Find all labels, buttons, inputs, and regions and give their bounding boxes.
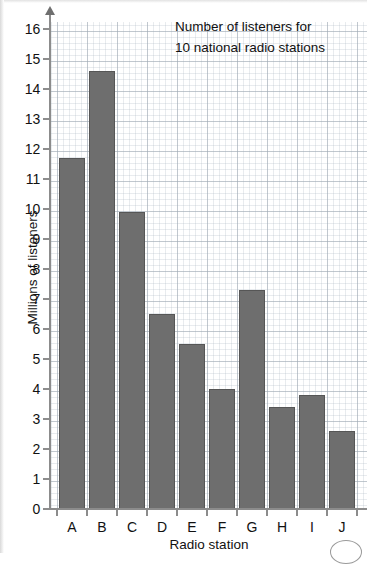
x-axis-line: [49, 508, 367, 510]
y-axis-tick: [43, 178, 50, 180]
x-axis-tick: [236, 509, 238, 516]
y-axis-tick: [43, 418, 50, 420]
y-axis-tick-label: 0: [0, 502, 40, 516]
x-axis-tick-label-f: F: [207, 520, 237, 535]
x-axis-tick-label-d: D: [147, 520, 177, 535]
y-axis-tick-label: 13: [0, 112, 40, 126]
x-axis-tick-label-b: B: [87, 520, 117, 535]
x-axis-tick: [296, 509, 298, 516]
y-axis-tick-label: 1: [0, 472, 40, 486]
x-axis-tick-label-g: G: [237, 520, 267, 535]
y-axis-tick-label: 15: [0, 52, 40, 66]
x-axis-tick-label-j: J: [327, 520, 357, 535]
y-axis-tick: [43, 358, 50, 360]
chart-title: Number of listeners for 10 national radi…: [175, 16, 325, 58]
bar-j: [329, 431, 355, 509]
y-axis-tick: [43, 478, 50, 480]
y-axis-tick: [43, 268, 50, 270]
x-axis-title: Radio station: [51, 537, 367, 552]
y-axis-tick: [43, 208, 50, 210]
y-axis-tick: [43, 238, 50, 240]
y-axis-tick-label: 3: [0, 412, 40, 426]
y-axis-tick: [43, 118, 50, 120]
x-axis-tick: [146, 509, 148, 516]
x-axis-tick-label-c: C: [117, 520, 147, 535]
y-axis-tick: [43, 88, 50, 90]
y-axis-tick: [43, 28, 50, 30]
bar-b: [89, 71, 115, 509]
y-axis-tick: [43, 388, 50, 390]
x-axis-tick: [326, 509, 328, 516]
y-axis-tick: [43, 298, 50, 300]
x-axis-tick: [356, 509, 358, 516]
x-axis-tick-label-e: E: [177, 520, 207, 535]
chart-title-line-1: Number of listeners for: [175, 16, 325, 37]
scan-edge-top: [0, 0, 367, 3]
x-axis-tick-label-i: I: [297, 520, 327, 535]
y-axis-tick-label: 12: [0, 142, 40, 156]
x-axis-tick-label-h: H: [267, 520, 297, 535]
y-axis-tick: [43, 448, 50, 450]
x-axis-tick-label-a: A: [57, 520, 87, 535]
y-axis-tick: [43, 58, 50, 60]
bar-h: [269, 407, 295, 509]
bar-e: [179, 344, 205, 509]
page-corner-mark: [330, 540, 362, 564]
chart-title-line-2: 10 national radio stations: [175, 37, 325, 58]
y-axis-tick-label: 14: [0, 82, 40, 96]
x-axis-tick: [176, 509, 178, 516]
y-axis-tick-label: 2: [0, 442, 40, 456]
bar-c: [119, 212, 145, 509]
y-axis-tick-label: 4: [0, 382, 40, 396]
bar-i: [299, 395, 325, 509]
y-axis-tick: [43, 148, 50, 150]
x-axis-tick: [116, 509, 118, 516]
y-axis-title: Millions of listeners: [25, 158, 40, 378]
bar-g: [239, 290, 265, 509]
x-axis-tick: [266, 509, 268, 516]
x-axis-tick: [206, 509, 208, 516]
y-axis-tick-label: 16: [0, 22, 40, 36]
bar-d: [149, 314, 175, 509]
bar-a: [59, 158, 85, 509]
y-axis-tick: [43, 508, 50, 510]
bar-f: [209, 389, 235, 509]
y-axis-tick: [43, 328, 50, 330]
y-axis-arrow-icon: [45, 6, 55, 15]
x-axis-tick: [56, 509, 58, 516]
x-axis-tick: [86, 509, 88, 516]
